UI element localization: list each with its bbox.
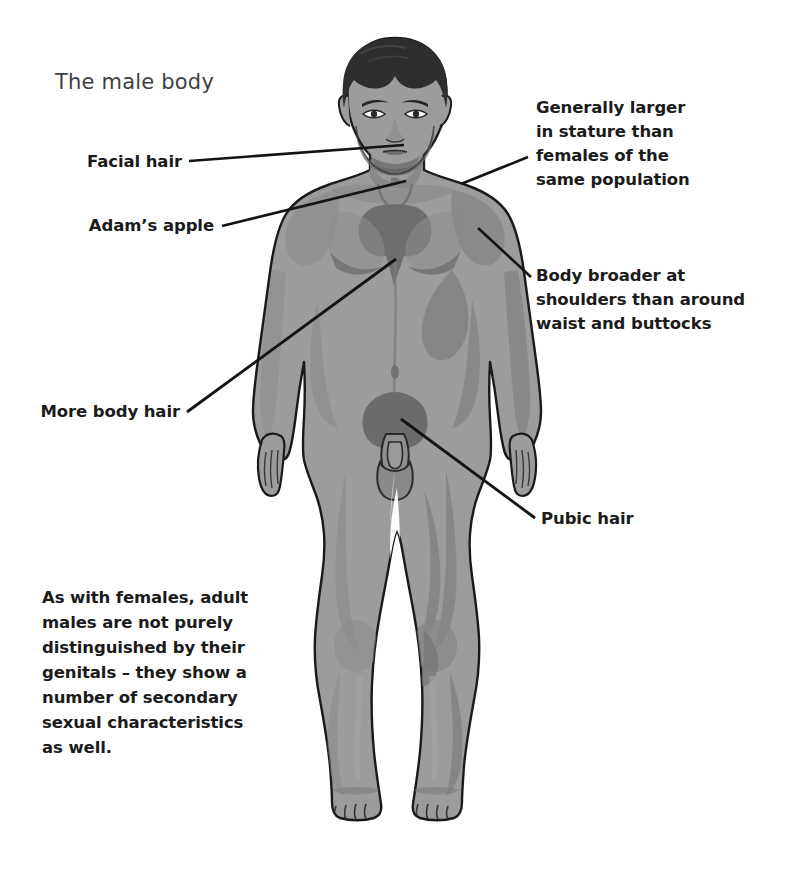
label-body-broader: Body broader at shoulders than around wa… [536, 264, 780, 336]
label-more-body-hair: More body hair [0, 400, 180, 424]
summary-note: As with females, adult males are not pur… [42, 585, 272, 760]
label-adams-apple: Adam’s apple [0, 214, 214, 238]
left-hand [258, 434, 284, 496]
diagram-page: The male body [0, 0, 790, 893]
label-generally-larger: Generally larger in stature than females… [536, 96, 776, 192]
label-facial-hair: Facial hair [0, 150, 182, 174]
body-shading-group [260, 150, 530, 819]
right-hand [510, 434, 536, 496]
label-pubic-hair: Pubic hair [541, 507, 741, 531]
